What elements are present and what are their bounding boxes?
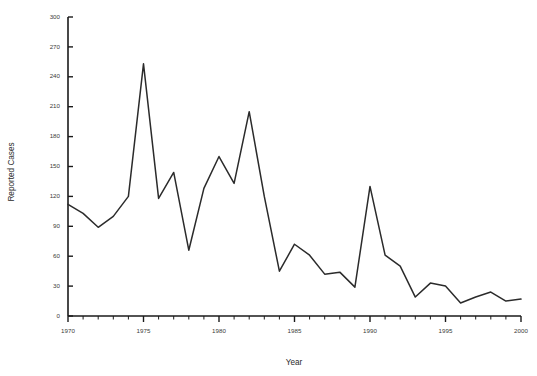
line-chart: 0306090120150180210240270300 19701975198… xyxy=(0,0,537,376)
x-tick-label-2000: 2000 xyxy=(514,327,528,334)
y-axis-group: 0306090120150180210240270300 xyxy=(50,13,73,319)
y-tick-label-0: 0 xyxy=(57,312,61,319)
y-tick-label-300: 300 xyxy=(50,13,61,20)
x-tick-marks xyxy=(68,316,521,322)
x-tick-label-1980: 1980 xyxy=(212,327,226,334)
x-tick-label-1975: 1975 xyxy=(137,327,151,334)
y-tick-label-90: 90 xyxy=(53,222,60,229)
y-tick-label-30: 30 xyxy=(53,282,60,289)
reported-cases-line xyxy=(68,64,521,303)
y-tick-label-270: 270 xyxy=(50,43,61,50)
y-tick-label-120: 120 xyxy=(50,192,61,199)
x-axis-title: Year xyxy=(286,358,303,367)
chart-container: 0306090120150180210240270300 19701975198… xyxy=(0,0,537,376)
y-tick-label-210: 210 xyxy=(50,102,61,109)
y-tick-label-180: 180 xyxy=(50,132,61,139)
y-axis-title: Reported Cases xyxy=(7,142,16,201)
x-tick-label-1970: 1970 xyxy=(61,327,75,334)
x-axis-group: 1970197519801985199019952000 xyxy=(61,316,528,334)
x-tick-labels: 1970197519801985199019952000 xyxy=(61,327,528,334)
x-tick-label-1990: 1990 xyxy=(363,327,377,334)
y-tick-label-240: 240 xyxy=(50,72,61,79)
y-tick-label-150: 150 xyxy=(50,162,61,169)
y-tick-label-60: 60 xyxy=(53,252,60,259)
x-tick-label-1985: 1985 xyxy=(288,327,302,334)
x-tick-label-1995: 1995 xyxy=(439,327,453,334)
y-tick-labels: 0306090120150180210240270300 xyxy=(50,13,61,319)
plot-area xyxy=(68,64,521,303)
